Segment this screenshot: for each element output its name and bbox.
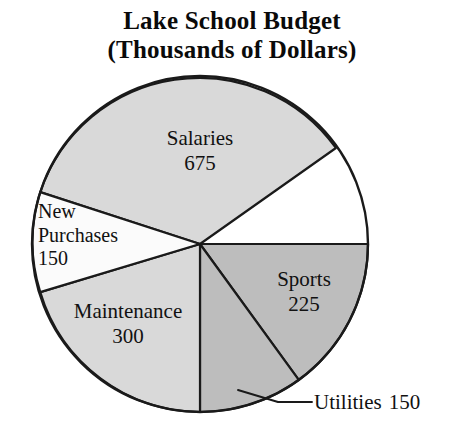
slice-label-utilities-value: 150 <box>389 390 421 414</box>
slice-label-utilities: Utilities150 <box>314 390 420 415</box>
slice-label-utilities-name: Utilities <box>314 390 382 414</box>
pie-chart-figure: Lake School Budget (Thousands of Dollars… <box>0 0 464 445</box>
pie-chart-graphic <box>0 0 464 445</box>
